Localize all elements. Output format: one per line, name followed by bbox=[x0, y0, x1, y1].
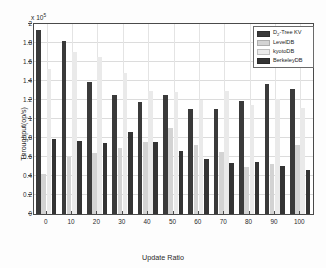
x-tick-mark bbox=[46, 211, 47, 215]
bar bbox=[118, 148, 123, 214]
legend-swatch bbox=[257, 31, 270, 37]
x-tick-label: 40 bbox=[134, 218, 160, 225]
bar bbox=[275, 99, 280, 214]
x-tick-label: 60 bbox=[185, 218, 211, 225]
bar bbox=[41, 174, 46, 214]
x-tick-mark bbox=[173, 211, 174, 215]
bar bbox=[168, 128, 173, 214]
bar bbox=[219, 152, 224, 214]
x-tick-label: 20 bbox=[83, 218, 109, 225]
x-tick-mark bbox=[274, 211, 275, 215]
bar bbox=[204, 159, 209, 214]
chart-figure: Throughput(op/s) x 105 00.20.40.60.811.2… bbox=[0, 0, 326, 268]
bar bbox=[67, 157, 72, 214]
x-tick-label: 90 bbox=[261, 218, 287, 225]
bar bbox=[97, 57, 102, 214]
bar bbox=[224, 91, 229, 215]
legend-label: D2-Tree KV bbox=[273, 30, 302, 37]
bar bbox=[87, 82, 92, 214]
x-tick-mark bbox=[147, 211, 148, 215]
bar bbox=[265, 84, 270, 214]
x-axis-title: Update Ratio bbox=[0, 253, 326, 262]
bar bbox=[174, 92, 179, 214]
bar bbox=[103, 143, 108, 214]
bar bbox=[52, 139, 57, 214]
y-tick-mark bbox=[28, 213, 32, 214]
bar bbox=[244, 167, 249, 214]
x-tick-label: 50 bbox=[160, 218, 186, 225]
y-tick-mark bbox=[28, 80, 32, 81]
bar bbox=[255, 162, 260, 214]
y-axis-multiplier: x 105 bbox=[31, 13, 46, 21]
legend-label: BerkeleyDB bbox=[273, 58, 303, 64]
y-tick-mark bbox=[28, 156, 32, 157]
bar bbox=[112, 95, 117, 214]
bar bbox=[280, 166, 285, 214]
x-tick-mark bbox=[249, 211, 250, 215]
x-tick-label: 80 bbox=[236, 218, 262, 225]
y-axis-multiplier-exponent: 5 bbox=[43, 13, 46, 18]
x-tick-label: 0 bbox=[33, 218, 59, 225]
legend-swatch bbox=[257, 49, 270, 55]
legend-item-d2-tree-kv[interactable]: D2-Tree KV bbox=[257, 29, 311, 38]
y-axis-multiplier-base: x 10 bbox=[31, 14, 43, 21]
x-tick-mark bbox=[223, 211, 224, 215]
legend-swatch bbox=[257, 40, 270, 46]
bar bbox=[179, 151, 184, 214]
y-tick-mark bbox=[28, 118, 32, 119]
legend-item-leveldb[interactable]: LevelDB bbox=[257, 38, 311, 47]
bar bbox=[163, 95, 168, 214]
bar bbox=[153, 142, 158, 214]
legend-label: LevelDB bbox=[273, 40, 294, 46]
bar bbox=[77, 141, 82, 214]
x-tick-mark bbox=[71, 211, 72, 215]
bar bbox=[306, 170, 311, 214]
legend-item-kyotodb[interactable]: kyotoDB bbox=[257, 47, 311, 56]
x-tick-label: 30 bbox=[109, 218, 135, 225]
bar bbox=[62, 41, 67, 214]
bar bbox=[214, 109, 219, 214]
y-tick-mark bbox=[28, 137, 32, 138]
legend-label: kyotoDB bbox=[273, 49, 294, 55]
bar bbox=[199, 100, 204, 214]
x-tick-mark bbox=[198, 211, 199, 215]
bar bbox=[72, 52, 77, 214]
y-tick-mark bbox=[28, 23, 32, 24]
y-tick-mark bbox=[28, 42, 32, 43]
x-tick-label: 100 bbox=[286, 218, 312, 225]
x-tick-mark bbox=[122, 211, 123, 215]
x-tick-mark bbox=[299, 211, 300, 215]
bar bbox=[300, 108, 305, 214]
y-tick-mark bbox=[28, 175, 32, 176]
x-tick-label: 70 bbox=[210, 218, 236, 225]
bar bbox=[92, 153, 97, 214]
bar bbox=[295, 145, 300, 214]
x-tick-mark bbox=[96, 211, 97, 215]
bar bbox=[138, 102, 143, 214]
bar bbox=[290, 89, 295, 214]
bar bbox=[270, 164, 275, 214]
bar bbox=[143, 142, 148, 214]
x-tick-label: 10 bbox=[58, 218, 84, 225]
bar bbox=[250, 105, 255, 214]
bar bbox=[194, 145, 199, 214]
y-tick-mark bbox=[28, 99, 32, 100]
bar bbox=[123, 73, 128, 214]
bar bbox=[47, 69, 52, 214]
chart-legend: D2-Tree KVLevelDBkyotoDBBerkeleyDB bbox=[253, 26, 314, 68]
y-tick-mark bbox=[28, 194, 32, 195]
bar bbox=[229, 163, 234, 214]
bar bbox=[239, 101, 244, 214]
bar bbox=[188, 109, 193, 214]
legend-item-berkeleydb[interactable]: BerkeleyDB bbox=[257, 56, 311, 65]
bar bbox=[128, 132, 133, 214]
bar bbox=[148, 91, 153, 215]
legend-swatch bbox=[257, 58, 270, 64]
bar bbox=[36, 30, 41, 214]
y-tick-mark bbox=[28, 61, 32, 62]
